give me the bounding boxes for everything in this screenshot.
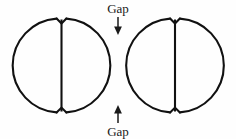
right-circle-left-arc [126, 19, 170, 113]
figure-canvas: Gap Gap [0, 0, 236, 139]
top-gap-annotation: Gap [107, 1, 129, 35]
right-circle-right-arc [180, 19, 224, 113]
top-gap-label: Gap [107, 1, 129, 16]
bottom-gap-annotation: Gap [107, 105, 129, 139]
right-circle-group [126, 19, 224, 113]
arrow-down-icon [114, 27, 122, 36]
gap-diagram: Gap Gap [0, 0, 236, 139]
left-circle-right-arc [66, 19, 110, 113]
left-circle-left-arc [13, 19, 57, 113]
left-circle-group [13, 19, 111, 113]
bottom-gap-label: Gap [107, 124, 129, 139]
